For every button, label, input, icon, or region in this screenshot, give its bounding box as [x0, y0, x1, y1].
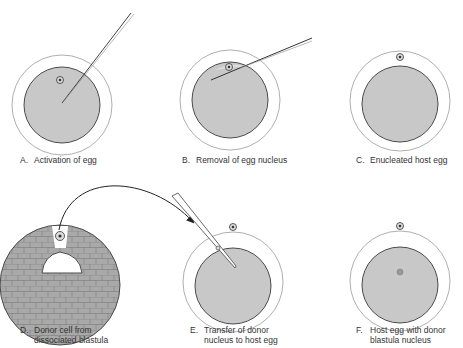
panel-b-egg [180, 38, 312, 150]
panel-d-blastula [0, 186, 193, 345]
transfer-arrow [59, 186, 193, 230]
caption-a: A.Activation of egg [20, 155, 97, 165]
diagram-canvas [0, 0, 463, 348]
cytoplasm [192, 62, 268, 138]
egg-nucleus-icon [230, 224, 237, 231]
cytoplasm [195, 248, 271, 324]
caption-c: C.Enucleated host egg [356, 155, 448, 165]
caption-e: E.Transfer of donor nucleus to host egg [190, 325, 278, 345]
egg-nucleus-icon [226, 64, 233, 71]
cytoplasm [362, 247, 438, 323]
removed-nucleus-icon [397, 54, 404, 61]
panel-f-egg [350, 223, 450, 332]
panel-a-egg [12, 13, 134, 155]
donor-cell-icon [56, 232, 65, 241]
caption-b: B.Removal of egg nucleus [182, 155, 287, 165]
panel-e-egg [172, 193, 283, 332]
caption-d: D.Donor cell from dissociated blastula [20, 325, 108, 345]
panel-c-egg [350, 51, 450, 151]
egg-nucleus-icon [57, 77, 64, 84]
donor-nucleus-icon [397, 269, 403, 275]
cytoplasm [362, 66, 438, 142]
caption-f: F.Host egg with donor blastula nucleus [356, 325, 446, 345]
removed-nucleus-icon [397, 223, 404, 230]
